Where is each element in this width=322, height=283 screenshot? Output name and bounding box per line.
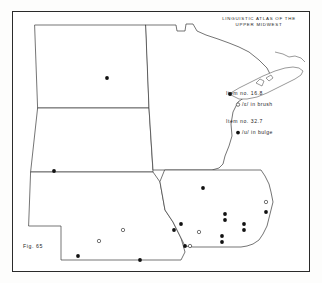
filled-dot-icon (235, 129, 242, 135)
data-point-open (121, 228, 124, 231)
legend-row-bulge: /u/ in bulge (226, 129, 310, 135)
map-title: LINGUISTIC ATLAS OF THE UPPER MIDWEST (209, 16, 309, 29)
open-circle-icon (235, 101, 242, 107)
state-north-dakota (35, 25, 149, 108)
data-point-filled (242, 228, 246, 232)
data-point-filled (76, 254, 80, 258)
legend-item-number-bulge: Item no. 32.7 (226, 118, 310, 124)
map-page: LINGUISTIC ATLAS OF THE UPPER MIDWEST It… (0, 0, 322, 283)
data-point-open (264, 200, 267, 203)
legend-group-brush: Item no. 16.8 /ɛ/ in brush (226, 90, 310, 107)
legend-label-brush: /ɛ/ in brush (242, 101, 273, 107)
data-point-filled (242, 222, 246, 226)
data-point-filled (223, 212, 227, 216)
map-title-line-2: UPPER MIDWEST (209, 22, 309, 28)
data-point-filled (220, 240, 224, 244)
legend-row-brush: /ɛ/ in brush (226, 101, 310, 107)
data-point-open (97, 239, 100, 242)
legend-item-number-brush: Item no. 16.8 (226, 90, 310, 96)
state-south-dakota (31, 108, 153, 172)
data-point-filled (220, 234, 224, 238)
data-point-filled (179, 222, 183, 226)
data-point-filled (105, 76, 109, 80)
data-point-filled (264, 210, 268, 214)
data-point-filled (201, 186, 205, 190)
map-frame: LINGUISTIC ATLAS OF THE UPPER MIDWEST It… (12, 11, 310, 272)
data-point-filled (183, 244, 187, 248)
figure-caption: Fig. 65 (23, 243, 43, 249)
map-legend: Item no. 16.8 /ɛ/ in brush Item no. 32.7 (226, 90, 310, 146)
data-point-filled (223, 218, 227, 222)
data-point-open (197, 230, 200, 233)
data-point-open (188, 244, 191, 247)
legend-label-bulge: /u/ in bulge (242, 129, 273, 135)
data-point-filled (172, 228, 176, 232)
legend-group-bulge: Item no. 32.7 /u/ in bulge (226, 118, 310, 135)
data-point-filled (52, 169, 56, 173)
data-point-filled (138, 258, 142, 262)
canada-border-detail (275, 52, 305, 62)
